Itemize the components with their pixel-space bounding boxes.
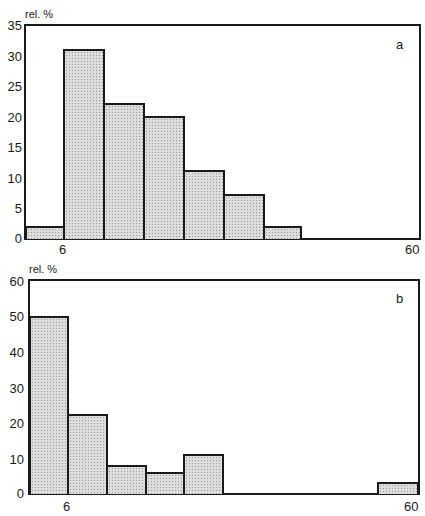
y-tick-a: 0 (0, 232, 22, 246)
histogram-bar-a (103, 103, 145, 239)
histogram-bar-a (143, 116, 185, 239)
panel-letter-b: b (396, 291, 403, 306)
histogram-panel-b: rel. % b 60 50 40 30 20 10 0 6 60 (0, 260, 425, 516)
histogram-bar-a (25, 226, 65, 239)
y-tick-b: 0 (2, 487, 24, 501)
histogram-bar-b (377, 482, 419, 494)
histogram-bar-b (145, 472, 185, 494)
y-tick-b: 10 (2, 453, 24, 467)
panel-letter-a: a (396, 37, 403, 52)
y-axis-label-a: rel. % (25, 8, 53, 20)
y-tick-a: 15 (0, 141, 22, 155)
y-tick-a: 20 (0, 111, 22, 125)
y-tick-a: 35 (0, 19, 22, 33)
y-tick-a: 10 (0, 172, 22, 186)
y-axis-label-b: rel. % (29, 263, 57, 275)
x-tick-b-6: 6 (63, 500, 70, 514)
histogram-bar-a (223, 194, 265, 239)
histogram-bar-b (67, 414, 108, 494)
histogram-bar-b (106, 465, 147, 494)
histogram-bar-b (29, 316, 69, 494)
x-tick-a-60: 60 (405, 243, 419, 257)
histogram-bar-a (63, 49, 105, 239)
y-tick-a: 5 (0, 202, 22, 216)
histogram-bar-b (183, 454, 224, 494)
histogram-bar-a (183, 170, 225, 239)
y-tick-b: 30 (2, 382, 24, 396)
y-tick-a: 25 (0, 80, 22, 94)
y-tick-b: 50 (2, 310, 24, 324)
y-tick-b: 40 (2, 346, 24, 360)
y-tick-b: 20 (2, 417, 24, 431)
x-tick-a-6: 6 (59, 243, 66, 257)
histogram-bar-a (263, 226, 302, 239)
y-tick-a: 30 (0, 50, 22, 64)
histogram-panel-a: rel. % a 35 30 25 20 15 10 5 0 6 60 (0, 0, 425, 258)
y-tick-b: 60 (2, 275, 24, 289)
x-tick-b-60: 60 (404, 500, 418, 514)
